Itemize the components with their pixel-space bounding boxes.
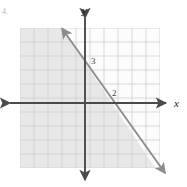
y-axis-label: y (81, 4, 87, 16)
y-intercept-label: 3 (91, 56, 96, 66)
x-axis-label: x (173, 97, 179, 109)
coordinate-plane-figure: x y 3 2 4. (0, 0, 187, 187)
x-intercept-label: 2 (112, 88, 117, 98)
graph-canvas: x y 3 2 4. (0, 0, 187, 187)
problem-number-mark: 4. (2, 7, 8, 16)
